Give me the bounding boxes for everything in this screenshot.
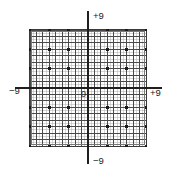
grid-node-marker	[125, 87, 128, 90]
grid-node-marker	[106, 29, 109, 32]
grid-node-marker	[106, 87, 109, 90]
grid-node-marker	[106, 48, 109, 51]
origin-label: 0	[81, 89, 86, 99]
grid-node-marker	[145, 67, 148, 70]
grid-node-marker	[67, 145, 70, 148]
grid-node-marker	[48, 125, 51, 128]
grid-node-marker	[145, 87, 148, 90]
grid-node-marker	[67, 125, 70, 128]
grid-node-marker	[125, 145, 128, 148]
grid-node-marker	[125, 67, 128, 70]
grid-node-marker	[67, 87, 70, 90]
grid-node-marker	[145, 48, 148, 51]
grid-node-marker	[48, 67, 51, 70]
grid-node-marker	[67, 29, 70, 32]
grid-node-marker	[87, 29, 90, 32]
axis-label-left: −9	[9, 85, 20, 96]
grid-node-marker	[48, 106, 51, 109]
grid-node-marker	[29, 29, 32, 32]
grid-node-marker	[87, 125, 90, 128]
grid-node-marker	[125, 29, 128, 32]
grid-node-marker	[29, 145, 32, 148]
grid-node-marker	[145, 145, 148, 148]
grid-node-marker	[48, 48, 51, 51]
coordinate-grid-svg: +9 +9 −9 −9 0	[0, 0, 174, 174]
grid-node-marker	[145, 125, 148, 128]
graph-paper-figure: +9 +9 −9 −9 0	[0, 0, 174, 174]
axis-label-right: +9	[150, 87, 161, 98]
grid-node-marker	[106, 125, 109, 128]
grid-node-marker	[125, 106, 128, 109]
grid-node-marker	[87, 106, 90, 109]
grid-node-marker	[145, 29, 148, 32]
grid-node-marker	[87, 145, 90, 148]
grid-node-marker	[67, 48, 70, 51]
grid-node-marker	[48, 145, 51, 148]
axis-label-bottom: −9	[93, 155, 104, 166]
grid-node-marker	[48, 29, 51, 32]
grid-node-marker	[145, 106, 148, 109]
grid-node-marker	[48, 87, 51, 90]
grid-node-marker	[125, 125, 128, 128]
grid-node-marker	[67, 106, 70, 109]
grid-node-marker	[87, 87, 90, 90]
grid-node-marker	[125, 48, 128, 51]
grid-node-marker	[106, 106, 109, 109]
grid-node-marker	[67, 67, 70, 70]
axis-label-top: +9	[93, 10, 104, 21]
grid-node-marker	[29, 106, 32, 109]
grid-node-marker	[106, 145, 109, 148]
grid-node-marker	[29, 125, 32, 128]
grid-node-marker	[29, 67, 32, 70]
grid-node-marker	[87, 67, 90, 70]
grid-node-marker	[29, 48, 32, 51]
grid-node-marker	[29, 87, 32, 90]
grid-node-marker	[87, 48, 90, 51]
grid-node-marker	[106, 67, 109, 70]
